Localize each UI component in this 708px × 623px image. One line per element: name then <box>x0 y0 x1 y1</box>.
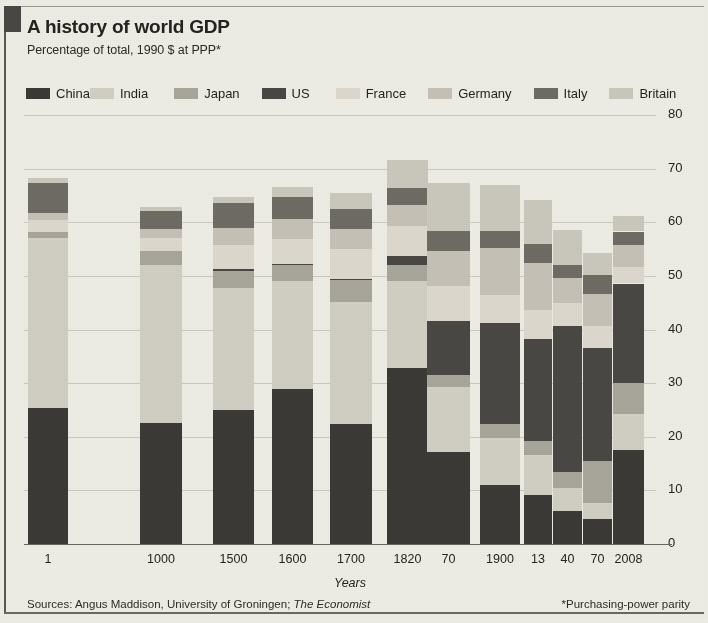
y-axis-tick-label: 40 <box>668 321 708 336</box>
bar-segment-italy <box>524 244 552 263</box>
bar-segment-china <box>480 485 520 544</box>
bar-segment-germany <box>140 229 182 238</box>
bar-segment-china <box>613 450 644 544</box>
bar-segment-japan <box>583 461 612 503</box>
bar-segment-france <box>213 245 254 269</box>
bar-segment-us <box>613 284 644 384</box>
bar-segment-india <box>213 288 254 410</box>
bar-stack[interactable] <box>553 0 582 544</box>
bar-stack[interactable] <box>140 0 182 544</box>
bar-segment-germany <box>480 248 520 295</box>
x-axis-line <box>24 544 672 545</box>
bar-stack[interactable] <box>330 0 372 544</box>
bar-segment-france <box>524 310 552 338</box>
bar-stack[interactable] <box>613 0 644 544</box>
bar-segment-france <box>583 326 612 348</box>
bar-segment-britain <box>553 230 582 265</box>
bar-segment-france <box>330 249 372 280</box>
bar-segment-germany <box>272 219 313 239</box>
bar-segment-us <box>480 323 520 424</box>
bar-stack[interactable] <box>272 0 313 544</box>
bar-segment-japan <box>140 251 182 265</box>
bar-segment-germany <box>427 251 470 286</box>
bar-segment-india <box>330 302 372 425</box>
y-axis-tick-label: 30 <box>668 374 708 389</box>
bar-segment-japan <box>480 424 520 438</box>
bar-segment-japan <box>387 265 428 281</box>
bar-segment-britain <box>28 178 68 182</box>
bar-segment-italy <box>213 203 254 228</box>
bar-segment-us <box>553 326 582 472</box>
bar-segment-india <box>427 387 470 452</box>
bar-segment-britain <box>427 183 470 231</box>
bar-segment-us <box>427 321 470 375</box>
bar-segment-britain <box>480 185 520 231</box>
bar-segment-germany <box>28 213 68 221</box>
y-axis-tick-label: 50 <box>668 267 708 282</box>
y-axis-tick-label: 20 <box>668 428 708 443</box>
bar-segment-germany <box>524 263 552 310</box>
x-axis-tick-label: 1000 <box>130 552 192 566</box>
bar-segment-italy <box>272 197 313 219</box>
x-axis-tick-label: 1700 <box>320 552 382 566</box>
bar-segment-japan <box>613 383 644 414</box>
bar-segment-india <box>480 438 520 485</box>
bar-segment-france <box>427 286 470 321</box>
bar-stack[interactable] <box>387 0 428 544</box>
bar-segment-japan <box>524 441 552 455</box>
bar-segment-us <box>387 256 428 266</box>
y-axis-tick-label: 60 <box>668 213 708 228</box>
bar-segment-britain <box>524 200 552 244</box>
bar-segment-japan <box>213 271 254 288</box>
bar-stack[interactable] <box>213 0 254 544</box>
bar-segment-india <box>583 503 612 520</box>
bar-stack[interactable] <box>480 0 520 544</box>
bar-segment-japan <box>553 472 582 488</box>
bar-segment-china <box>387 368 428 544</box>
bar-segment-india <box>553 488 582 511</box>
bar-segment-italy <box>583 275 612 294</box>
chart-figure: A history of world GDP Percentage of tot… <box>0 0 708 623</box>
bar-segment-china <box>553 511 582 544</box>
bar-segment-britain <box>387 160 428 188</box>
x-axis-tick-label: 1 <box>18 552 78 566</box>
bar-segment-china <box>583 519 612 544</box>
bar-segment-us <box>213 269 254 271</box>
bar-segment-britain <box>613 216 644 232</box>
y-axis-tick-label: 70 <box>668 160 708 175</box>
bar-segment-us <box>524 339 552 441</box>
x-axis-tick-label: 1500 <box>203 552 264 566</box>
bar-segment-japan <box>28 232 68 238</box>
bar-segment-france <box>480 295 520 323</box>
bar-segment-germany <box>613 245 644 266</box>
bar-segment-germany <box>213 228 254 246</box>
bar-segment-japan <box>330 280 372 302</box>
bar-segment-china <box>524 495 552 544</box>
bar-segment-france <box>140 238 182 251</box>
bar-segment-germany <box>583 294 612 326</box>
bar-segment-italy <box>613 232 644 246</box>
bar-segment-germany <box>387 205 428 226</box>
bar-stack[interactable] <box>427 0 470 544</box>
y-axis-tick-label: 0 <box>668 535 708 550</box>
bar-segment-italy <box>140 211 182 229</box>
bar-segment-us <box>330 279 372 280</box>
bar-segment-france <box>387 226 428 255</box>
bar-stack[interactable] <box>583 0 612 544</box>
bar-segment-india <box>272 281 313 389</box>
bar-stack[interactable] <box>524 0 552 544</box>
bar-segment-france <box>28 220 68 232</box>
bar-segment-italy <box>330 209 372 229</box>
bar-segment-china <box>213 410 254 544</box>
bar-stack[interactable] <box>28 0 68 544</box>
bar-segment-china <box>272 389 313 544</box>
x-axis-tick-label: 1600 <box>262 552 323 566</box>
y-axis-tick-label: 80 <box>668 106 708 121</box>
bar-segment-india <box>524 455 552 495</box>
bar-segment-britain <box>272 187 313 197</box>
bar-segment-india <box>613 414 644 450</box>
bar-segment-france <box>613 267 644 284</box>
bar-segment-britain <box>213 197 254 203</box>
bar-segment-china <box>427 452 470 544</box>
bar-segment-britain <box>330 193 372 209</box>
